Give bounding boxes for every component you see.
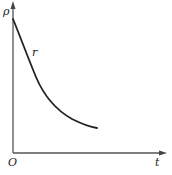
curve-r <box>13 19 97 128</box>
x-axis-label: t <box>155 157 159 168</box>
y-axis-label: ρ <box>3 6 9 17</box>
curve-label: r <box>32 47 37 58</box>
y-axis-arrow-icon <box>11 1 16 9</box>
chart-canvas <box>0 0 172 175</box>
origin-label: O <box>8 157 17 168</box>
x-axis-arrow-icon <box>159 151 167 156</box>
